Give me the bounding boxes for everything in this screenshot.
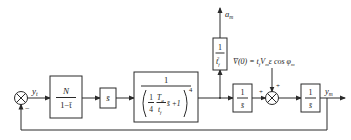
svg-text:1: 1 bbox=[309, 88, 313, 97]
feedback-minus-sign: − bbox=[25, 104, 30, 113]
s-bar-block: s̄ bbox=[100, 88, 116, 108]
svg-text:s̄: s̄ bbox=[309, 101, 312, 110]
lag-block: 1 1 4 Tg tf s̄ +1 4 bbox=[134, 72, 198, 122]
input-signal-label: yt bbox=[31, 86, 38, 97]
gain-block: N 1−t̄ bbox=[50, 76, 82, 118]
svg-text:1: 1 bbox=[241, 88, 245, 97]
svg-text:s̄: s̄ bbox=[241, 101, 244, 110]
lag-den-rest: s̄ +1 bbox=[167, 99, 181, 108]
integrator-1-block: 1 s̄ bbox=[233, 84, 252, 112]
gain-denominator: 1−t̄ bbox=[60, 100, 72, 110]
svg-text:1: 1 bbox=[149, 93, 153, 102]
lag-numerator: 1 bbox=[164, 75, 168, 85]
summing-junction-1 bbox=[15, 92, 28, 105]
summing-junction-2 bbox=[266, 92, 279, 105]
sum2-plus-left: + bbox=[259, 88, 263, 96]
accel-output-label: am bbox=[225, 9, 233, 20]
svg-text:4: 4 bbox=[149, 105, 153, 114]
block-diagram: − yt N 1−t̄ s̄ 1 1 4 Tg tf s̄ +1 4 bbox=[0, 0, 351, 140]
initial-condition-label: V̄(0) = tfVmε cos φm bbox=[233, 57, 295, 67]
svg-text:1: 1 bbox=[218, 43, 222, 52]
accel-scale-block: 1 tf2 bbox=[213, 38, 227, 70]
output-label: ym bbox=[324, 86, 333, 97]
sum2-plus-top: + bbox=[276, 82, 280, 90]
gain-numerator: N bbox=[62, 86, 70, 96]
integrator-2-block: 1 s̄ bbox=[301, 84, 320, 112]
